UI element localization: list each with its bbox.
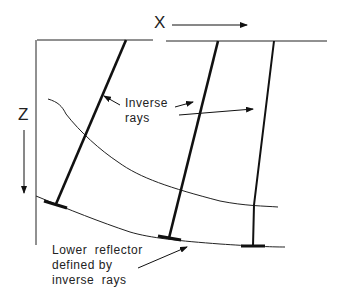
surface-line <box>37 40 327 41</box>
inverse-rays <box>56 40 274 246</box>
lower-reflector-arrow <box>138 247 187 268</box>
lower-reflector-label-line1: Lower reflector <box>52 243 143 258</box>
inverse-rays-arrow-3 <box>179 109 253 115</box>
lower-reflector-label-line2: defined by <box>52 258 112 273</box>
reflector-segments <box>44 201 265 246</box>
z-axis-label: Z <box>18 107 29 122</box>
lower-reflector-curve <box>36 196 285 247</box>
inverse-rays-label-line2: rays <box>125 111 150 126</box>
inverse-rays-arrow-1 <box>104 96 120 105</box>
lower-reflector-label-line3: inverse rays <box>52 273 127 288</box>
upper-reflector-curve <box>48 99 278 207</box>
inverse-rays-label-line1: Inverse <box>125 96 168 111</box>
inverse-rays-arrow-2 <box>175 102 193 107</box>
x-axis-label: X <box>154 15 166 30</box>
